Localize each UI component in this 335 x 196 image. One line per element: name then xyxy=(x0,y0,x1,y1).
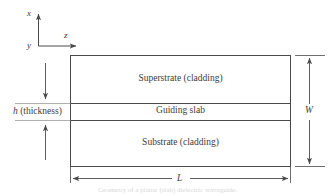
thickness-symbol: h xyxy=(13,106,18,116)
coordinate-axes xyxy=(39,14,77,46)
width-label: W xyxy=(305,106,313,116)
layer-label-substrate: Substrate (cladding) xyxy=(70,138,291,148)
axis-label-y: y xyxy=(27,41,31,50)
length-label: L xyxy=(177,174,182,184)
figure-caption: Geometry of a planar (slab) dielectric w… xyxy=(0,186,335,194)
layer-label-guiding-slab: Guiding slab xyxy=(70,106,291,116)
thickness-label: h (thickness) xyxy=(12,107,63,117)
axis-label-x: x xyxy=(27,9,31,18)
figure-slab-waveguide: x y z Superstrate (cladding) Guiding sla… xyxy=(0,0,335,196)
layer-label-superstrate: Superstrate (cladding) xyxy=(70,74,291,84)
diagram-canvas xyxy=(0,0,335,196)
axis-label-z: z xyxy=(64,31,68,40)
thickness-text: (thickness) xyxy=(20,106,62,116)
